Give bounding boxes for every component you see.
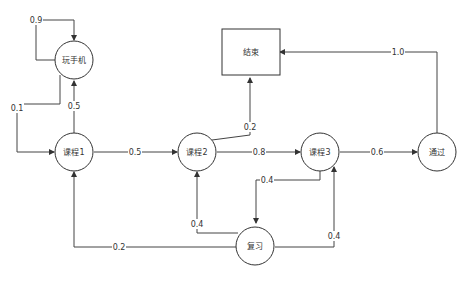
node-label: 课程1 bbox=[63, 148, 84, 157]
node-course3: 课程3 bbox=[301, 133, 339, 171]
node-course2: 课程2 bbox=[178, 133, 216, 171]
edge-pass-end: 1.0 bbox=[280, 47, 437, 133]
edge-phone-c1: 0.1 bbox=[10, 75, 60, 152]
node-label: 结束 bbox=[243, 47, 259, 57]
edge-label: 0.9 bbox=[30, 16, 43, 25]
edge-label: 0.4 bbox=[328, 232, 341, 241]
edge-label: 0.4 bbox=[191, 220, 204, 229]
edge-label: 0.2 bbox=[113, 243, 126, 252]
edge-c2-c3: 0.8 bbox=[217, 147, 300, 157]
node-pass: 通过 bbox=[418, 133, 456, 171]
edge-c3-pass: 0.6 bbox=[340, 147, 417, 157]
edge-c3-review: 0.4 bbox=[256, 171, 320, 223]
node-course1: 课程1 bbox=[55, 133, 93, 171]
edge-c2-end: 0.2 bbox=[212, 78, 257, 140]
node-label: 玩手机 bbox=[62, 55, 86, 65]
node-label: 课程2 bbox=[186, 148, 207, 157]
node-label: 复习 bbox=[247, 241, 263, 251]
edge-review-c1: 0.2 bbox=[74, 172, 236, 252]
edge-label: 0.4 bbox=[261, 176, 274, 185]
edge-c1-c2: 0.5 bbox=[94, 147, 177, 157]
node-phone: 玩手机 bbox=[55, 41, 93, 79]
node-label: 通过 bbox=[429, 147, 445, 157]
edge-label: 0.2 bbox=[244, 123, 257, 132]
node-label: 课程3 bbox=[309, 148, 330, 157]
node-end: 结束 bbox=[222, 29, 280, 75]
markov-diagram: 0.9 0.1 0.5 0.5 0.2 0.8 0.6 0.4 bbox=[0, 0, 471, 282]
edge-review-c2: 0.4 bbox=[190, 172, 238, 233]
edge-review-c3: 0.4 bbox=[275, 167, 341, 247]
edge-c1-phone: 0.5 bbox=[67, 81, 81, 133]
edge-label: 0.5 bbox=[68, 102, 81, 111]
edge-label: 0.8 bbox=[253, 148, 266, 157]
edge-label: 1.0 bbox=[392, 48, 405, 57]
node-review: 复习 bbox=[236, 227, 274, 265]
edge-label: 0.5 bbox=[129, 148, 142, 157]
edge-label: 0.6 bbox=[371, 148, 384, 157]
edge-label: 0.1 bbox=[11, 104, 24, 113]
